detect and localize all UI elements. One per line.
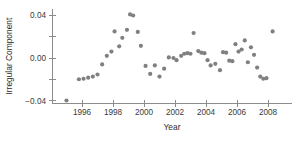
data-point	[148, 72, 152, 76]
x-tick-label: 1996	[73, 108, 92, 117]
x-tick-label: 2006	[228, 108, 247, 117]
data-point	[77, 77, 81, 81]
data-point	[81, 77, 85, 81]
data-point	[243, 38, 247, 42]
x-tick-label: 2004	[197, 108, 216, 117]
data-point	[95, 72, 99, 76]
data-point	[252, 53, 256, 57]
data-point	[233, 42, 237, 46]
y-tick-label: −0.04	[25, 97, 46, 106]
y-tick-label: 0.00	[30, 54, 46, 63]
x-tick-label: 2008	[259, 108, 278, 117]
data-point	[109, 50, 113, 54]
data-point	[139, 44, 143, 48]
chart-figure: −0.040.000.04 19961998200020022004200620…	[0, 0, 298, 143]
data-point	[117, 44, 121, 48]
data-point	[100, 62, 104, 66]
data-point	[218, 68, 222, 72]
data-point	[213, 62, 217, 66]
data-point	[136, 30, 140, 34]
data-point	[167, 55, 171, 59]
data-point	[153, 63, 157, 67]
x-tick-label: 1998	[104, 108, 123, 117]
x-tick-label: 2002	[166, 108, 185, 117]
data-point	[125, 28, 129, 32]
data-point	[246, 60, 250, 64]
data-point	[240, 47, 244, 51]
data-point	[264, 76, 268, 80]
data-point	[91, 75, 95, 79]
data-point	[224, 51, 228, 55]
data-point	[162, 67, 166, 71]
data-point	[255, 65, 259, 69]
data-point	[157, 75, 161, 79]
data-point	[202, 51, 206, 55]
data-point	[64, 98, 68, 102]
data-point	[188, 52, 192, 56]
data-point	[249, 45, 253, 49]
scatter-plot: −0.040.000.04 19961998200020022004200620…	[0, 0, 298, 143]
data-point	[131, 13, 135, 17]
y-axis-title: Irregular Component	[4, 17, 14, 94]
axis-labels-layer: YearIrregular Component	[4, 17, 181, 132]
data-points-layer	[64, 12, 274, 102]
data-point	[112, 29, 116, 33]
data-point	[86, 76, 90, 80]
data-point	[120, 36, 124, 40]
data-point	[230, 59, 234, 63]
data-point	[192, 31, 196, 35]
data-point	[205, 58, 209, 62]
data-point	[209, 63, 213, 67]
x-tick-label: 2000	[135, 108, 154, 117]
data-point	[271, 29, 275, 33]
y-axis: −0.040.000.04	[25, 9, 55, 105]
data-point	[143, 64, 147, 68]
data-point	[105, 54, 109, 58]
x-axis: 1996199820002002200420062008	[52, 100, 292, 118]
y-tick-label: 0.04	[30, 11, 46, 20]
x-axis-title: Year	[164, 122, 181, 132]
data-point	[174, 58, 178, 62]
